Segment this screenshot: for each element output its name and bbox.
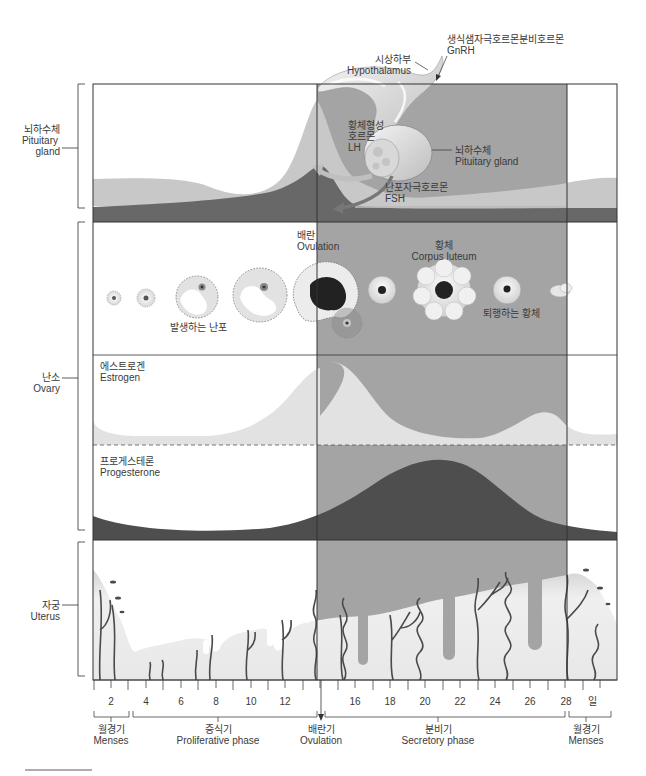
pituitary-gland-label-ko: 뇌하수체 [455, 145, 518, 156]
day-label: 18 [380, 696, 400, 707]
lh-label-ko-2: 호르몬 [348, 131, 384, 142]
hypothalamus-label-ko: 시상하부 [347, 54, 411, 65]
phase-label-ovulation: 배란기 Ovulation [293, 724, 349, 746]
day-label: 4 [136, 696, 156, 707]
corpus-luteum-label-ko: 황체 [408, 240, 480, 251]
hypothalamus-label-en: Hypothalamus [347, 65, 411, 76]
pituitary-brace [78, 84, 85, 208]
ovulation-day-arrow [318, 680, 324, 721]
lh-label: 황체형성 호르몬 LH [348, 120, 384, 153]
phase-label-ko: 분비기 [388, 724, 488, 735]
side-label-ovary: 난소 Ovary [33, 372, 60, 394]
side-label-pituitary: 뇌하수체 Pituitary gland [22, 124, 60, 157]
ovulation-label-en: Ovulation [297, 241, 339, 252]
phase-label-ko: 월경기 [560, 724, 612, 735]
menstrual-cycle-diagram [0, 0, 646, 776]
day-label: 2 [101, 696, 121, 707]
day-unit-label: 일 [582, 696, 602, 707]
gnrh-label-en: GnRH [447, 45, 564, 56]
progesterone-label-en: Progesterone [100, 467, 160, 478]
phase-label-en: Ovulation [293, 735, 349, 746]
degenerating-corpus-luteum [493, 276, 521, 304]
ovary-brace [78, 222, 85, 530]
side-label-pituitary-ko: 뇌하수체 [22, 124, 60, 135]
early-corpus-luteum [368, 276, 396, 304]
phase-label-ko: 증식기 [168, 724, 268, 735]
corpus-luteum-label-en: Corpus luteum [408, 251, 480, 262]
degenerating-corpus-luteum-label: 퇴행하는 황체 [483, 308, 540, 319]
fsh-label-en: FSH [385, 193, 448, 204]
day-label: 22 [450, 696, 470, 707]
day-label: 26 [520, 696, 540, 707]
ovulation-label: 배란 Ovulation [297, 230, 339, 252]
phase-label-en: Menses [81, 735, 141, 746]
side-label-ovary-en: Ovary [33, 383, 60, 394]
phase-label-ko: 배란기 [293, 724, 349, 735]
hypothalamus-pointer [415, 62, 428, 70]
phase-label-en: Secretory phase [388, 735, 488, 746]
fsh-label-ko: 난포자극호르몬 [385, 182, 448, 193]
ovulation-label-ko: 배란 [297, 230, 339, 241]
fsh-label: 난포자극호르몬 FSH [385, 182, 448, 204]
day-label: 10 [241, 696, 261, 707]
gnrh-label-ko: 생식샘자극호르몬분비호르몬 [447, 34, 564, 45]
phase-label-menses-1: 월경기 Menses [81, 724, 141, 746]
hypothalamus-label: 시상하부 Hypothalamus [347, 54, 411, 76]
menses-bracket-1 [94, 711, 129, 717]
day-label: 16 [345, 696, 365, 707]
side-label-uterus-ko: 자궁 [31, 600, 60, 611]
corpus-luteum-label: 황체 Corpus luteum [408, 240, 480, 262]
estrogen-label-ko: 에스트로겐 [100, 361, 145, 372]
lh-label-en: LH [348, 142, 384, 153]
menses-bracket-2 [569, 711, 611, 717]
estrogen-label: 에스트로겐 Estrogen [100, 361, 145, 383]
pituitary-gland-label: 뇌하수체 Pituitary gland [455, 145, 518, 167]
estrogen-label-en: Estrogen [100, 372, 145, 383]
side-label-pituitary-en2: gland [22, 146, 60, 157]
phase-label-secretory: 분비기 Secretory phase [388, 724, 488, 746]
day-label: 24 [485, 696, 505, 707]
side-label-ovary-ko: 난소 [33, 372, 60, 383]
phase-label-menses-2: 월경기 Menses [560, 724, 612, 746]
phase-label-ko: 월경기 [81, 724, 141, 735]
phase-label-proliferative: 증식기 Proliferative phase [168, 724, 268, 746]
secretory-bracket [325, 711, 565, 717]
phase-label-en: Menses [560, 735, 612, 746]
day-axis-ticks [93, 680, 617, 690]
uterus-brace [78, 542, 85, 676]
day-label: 8 [206, 696, 226, 707]
left-braces [62, 84, 85, 676]
side-label-pituitary-en: Pituitary [22, 135, 58, 146]
developing-follicles-label: 발생하는 난포 [170, 322, 227, 333]
progesterone-label-ko: 프로게스테론 [100, 456, 160, 467]
side-label-uterus: 자궁 Uterus [31, 600, 60, 622]
phase-brackets [94, 711, 611, 722]
proliferative-bracket [133, 711, 317, 717]
lh-label-ko-1: 황체형성 [348, 120, 384, 131]
pituitary-gland-label-en: Pituitary gland [455, 156, 518, 167]
day-label: 6 [171, 696, 191, 707]
gnrh-label: 생식샘자극호르몬분비호르몬 GnRH [447, 34, 564, 56]
side-label-uterus-en: Uterus [31, 611, 60, 622]
day-label: 12 [275, 696, 295, 707]
phase-label-en: Proliferative phase [168, 735, 268, 746]
progesterone-label: 프로게스테론 Progesterone [100, 456, 160, 478]
day-label: 20 [415, 696, 435, 707]
day-label: 28 [556, 696, 576, 707]
